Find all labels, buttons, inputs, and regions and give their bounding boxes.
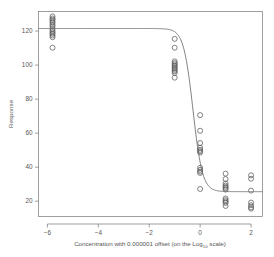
scatter-plot-figure: 20406080100120 −6−4−202 Response Concent… xyxy=(0,0,274,257)
x-axis-title: Concentration with 0.000001 offset (on t… xyxy=(74,240,226,249)
data-point xyxy=(172,75,177,80)
y-axis-title-text: Response xyxy=(7,100,14,128)
x-tick-label: −4 xyxy=(95,229,103,236)
data-point xyxy=(198,113,203,118)
x-tick-label: 2 xyxy=(249,229,253,236)
y-tick-label: 60 xyxy=(25,129,33,136)
y-tick-label: 80 xyxy=(25,95,33,102)
data-point xyxy=(198,141,203,146)
plot-svg: 20406080100120 −6−4−202 Response Concent… xyxy=(0,0,274,257)
x-axis: −6−4−202 xyxy=(44,224,254,236)
plot-frame xyxy=(39,12,263,217)
data-point xyxy=(249,188,254,193)
y-axis: 20406080100120 xyxy=(22,27,39,204)
data-point xyxy=(172,36,177,41)
y-tick-label: 20 xyxy=(25,197,33,204)
y-axis-title: Response xyxy=(7,100,14,128)
x-axis-title-prefix: Concentration with 0.000001 offset (on t… xyxy=(74,240,203,247)
y-tick-label: 40 xyxy=(25,163,33,170)
data-point xyxy=(172,45,177,50)
data-points-group xyxy=(50,14,254,211)
x-axis-title-text: Concentration with 0.000001 offset (on t… xyxy=(74,240,226,249)
x-tick-label: −6 xyxy=(44,229,52,236)
data-point xyxy=(50,45,55,50)
y-tick-label: 120 xyxy=(22,27,33,34)
data-point xyxy=(249,176,254,181)
x-tick-label: 0 xyxy=(198,229,202,236)
x-axis-title-suffix: scale) xyxy=(208,240,226,247)
data-point xyxy=(198,128,203,133)
fitted-curve xyxy=(39,29,263,192)
y-tick-label: 100 xyxy=(22,61,33,68)
data-point xyxy=(198,186,203,191)
x-tick-label: −2 xyxy=(146,229,154,236)
data-point xyxy=(223,171,228,176)
